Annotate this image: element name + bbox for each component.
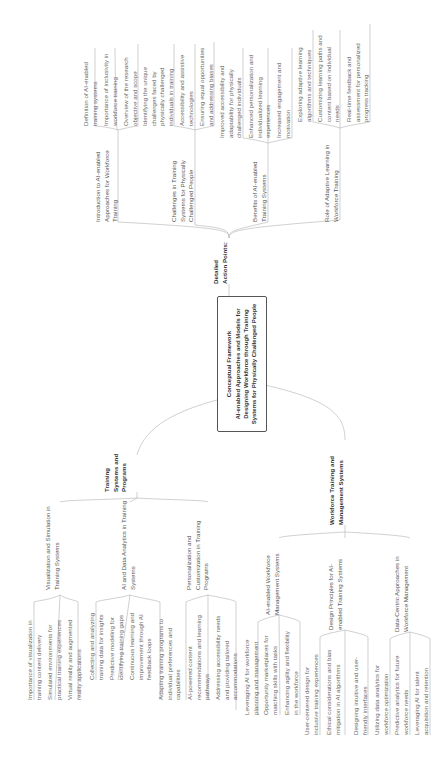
topic-visualization-simulation[interactable]: Visualization and Simulation in Training… xyxy=(44,495,61,590)
topic-ai-workforce-management[interactable]: AI-enabled Workforce Management Systems xyxy=(264,537,281,615)
root-node-text: Conceptual Framework AI-enabled Approach… xyxy=(218,297,266,431)
leaf-ai-content-recommendations[interactable]: AI-powered content recommendations and l… xyxy=(186,612,212,700)
topic-introduction[interactable]: Introduction to AI-enabled Approaches fo… xyxy=(94,140,120,222)
leaf-predictive-analytics[interactable]: Predictive analytics for future workforc… xyxy=(393,643,410,735)
leaf-ethical-considerations[interactable]: Ethical considerations and bias mitigati… xyxy=(325,643,342,735)
leaf-opportunity-marketplaces[interactable]: Opportunity marketplaces for matching sk… xyxy=(262,627,279,715)
leaf-simulated-environments[interactable]: Simulated environments for practical tra… xyxy=(46,610,63,700)
leaf-agility-flexibility[interactable]: Enhancing agility and flexibility in the… xyxy=(283,627,300,715)
leaf-adaptive-algorithms[interactable]: Exploring adaptive learning algorithms a… xyxy=(296,32,313,122)
topic-data-centric[interactable]: Data-Centric Approaches in Workforce Man… xyxy=(393,544,410,632)
leaf-enhanced-personalization[interactable]: Enhanced personalization and individuali… xyxy=(247,48,273,138)
leaf-continuous-learning[interactable]: Continuous learning and improvement thro… xyxy=(128,598,154,680)
leaf-adapting-programs[interactable]: Adapting training programs to individual… xyxy=(157,612,183,700)
topic-adaptive-learning[interactable]: Role of Adaptive Learning in Workforce T… xyxy=(323,132,340,222)
leaf-predictive-modeling[interactable]: Predictive modeling for identifying trai… xyxy=(108,598,125,680)
leaf-improved-accessibility[interactable]: Improved accessibility and adaptability … xyxy=(218,48,244,138)
leaf-customizing-paths[interactable]: Customizing learning paths and content b… xyxy=(316,32,342,122)
leaf-collecting-data[interactable]: Collecting and analyzing training data f… xyxy=(88,598,105,680)
topic-benefits[interactable]: Benefits of AI-enabled Training Systems xyxy=(251,142,268,222)
leaf-increased-engagement[interactable]: Increased engagement and motivation xyxy=(275,48,292,138)
leaf-research-overview[interactable]: Overview of the research objective and s… xyxy=(122,46,139,126)
topic-challenges[interactable]: Challenges in Training Systems for Physi… xyxy=(170,140,196,222)
leaf-vr-ar[interactable]: Virtual reality and augmented reality ap… xyxy=(66,610,83,700)
branch-detailed-action-points[interactable]: Detailed Action Points: xyxy=(212,240,229,284)
topic-ai-data-analytics[interactable]: AI and Data Analytics in Training System… xyxy=(120,500,137,590)
leaf-workforce-planning[interactable]: Leveraging AI for workforce planning and… xyxy=(243,627,260,715)
leaf-definition-ai-training[interactable]: Definition of AI-enabled training system… xyxy=(82,46,99,126)
branch-workforce-management[interactable]: Workforce Training and Management System… xyxy=(328,440,345,525)
leaf-importance-visualization[interactable]: Importance of visualization in training … xyxy=(26,610,43,700)
leaf-intuitive-interfaces[interactable]: Designing intuitive and user-friendly in… xyxy=(352,643,369,735)
leaf-importance-inclusivity[interactable]: Importance of inclusivity in workforce t… xyxy=(102,46,119,126)
leaf-data-analytics-optimization[interactable]: Utilizing data analytics for workforce o… xyxy=(373,643,390,735)
leaf-realtime-feedback[interactable]: Real-time feedback and assessment for pe… xyxy=(345,32,371,122)
leaf-accessibility-accommodations[interactable]: Addressing accessibility needs and provi… xyxy=(214,612,240,700)
topic-personalization[interactable]: Personalization and Customization in Tra… xyxy=(185,500,211,590)
branch-training-systems[interactable]: Training Systems and Programs xyxy=(103,450,129,492)
root-title: Conceptual Framework xyxy=(225,297,233,431)
topic-design-principles[interactable]: Design Principles for AI-enabled Trainin… xyxy=(327,542,344,630)
leaf-equal-opportunities[interactable]: Ensuring equal opportunities and address… xyxy=(198,44,215,126)
leaf-assistive-technologies[interactable]: Accessibility and assistive technologies xyxy=(178,44,195,126)
root-subtitle: AI-enabled Approaches and Models for Des… xyxy=(234,297,259,431)
leaf-user-centered-design[interactable]: User-centered design for inclusive train… xyxy=(303,643,320,735)
root-node[interactable]: Conceptual Framework AI-enabled Approach… xyxy=(217,296,267,432)
leaf-unique-challenges[interactable]: Identifying the unique challenges faced … xyxy=(141,44,175,126)
leaf-talent-acquisition[interactable]: Leveraging AI for talent acquisition and… xyxy=(413,643,430,735)
